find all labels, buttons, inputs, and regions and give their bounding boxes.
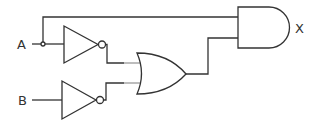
not-gate-1-bubble [99, 41, 106, 48]
not-gate-2-bubble [97, 97, 104, 104]
wire-not1-to-or [106, 45, 125, 64]
input-label-b: B [18, 94, 27, 107]
wire-or-to-and [186, 38, 238, 74]
not-gate-2 [62, 81, 96, 119]
not-gate-1 [64, 26, 98, 63]
or-gate [137, 53, 186, 94]
circuit-svg [0, 0, 319, 127]
and-gate [238, 7, 290, 48]
junction-dot [41, 42, 45, 46]
input-label-a: A [17, 38, 26, 51]
wire-not2-to-or [104, 83, 125, 100]
output-label-x: X [295, 22, 304, 35]
logic-circuit-diagram: A B X [0, 0, 319, 127]
